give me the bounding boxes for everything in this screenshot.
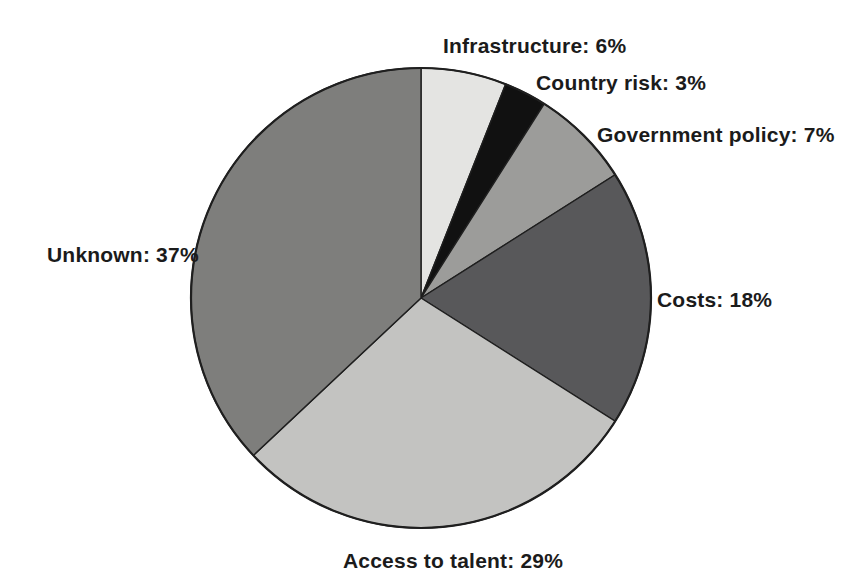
slice-label-access-to-talent: Access to talent: 29% xyxy=(343,549,563,572)
slice-label-unknown: Unknown: 37% xyxy=(47,243,199,266)
slice-label-government-policy: Government policy: 7% xyxy=(597,123,835,146)
slice-label-costs: Costs: 18% xyxy=(657,288,772,311)
slice-label-infrastructure: Infrastructure: 6% xyxy=(443,34,626,57)
pie-chart-figure: Infrastructure: 6% Country risk: 3% Gove… xyxy=(0,0,859,578)
slice-label-country-risk: Country risk: 3% xyxy=(536,71,706,94)
